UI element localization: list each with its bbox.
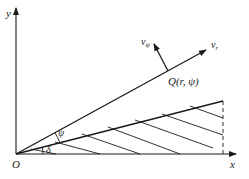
tangential-velocity-label: vψ [141,36,150,49]
tangential-velocity-vector [154,44,168,71]
point-q-label: Q(r, ψ) [168,75,199,88]
radial-velocity-label: vr [211,39,218,52]
delta-angle-label: δ [46,144,51,155]
delta-angle-arc [42,147,43,154]
psi-angle-label: ψ [58,127,65,138]
radial-ray [16,50,206,154]
x-axis-label: x [229,158,235,170]
diagram-canvas: y x O Q(r, ψ) vr vψ ψ δ [0,0,249,179]
origin-label: O [12,158,20,170]
y-axis-label: y [5,7,11,19]
